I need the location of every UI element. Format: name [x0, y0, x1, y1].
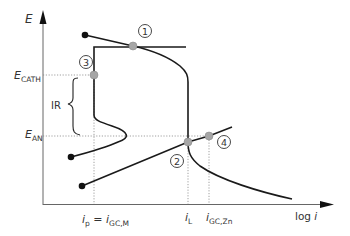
e-cath-label: ECATH	[14, 69, 41, 84]
svg-text:4: 4	[221, 137, 227, 148]
point-3	[90, 71, 98, 79]
axes	[40, 10, 335, 208]
guide-lines	[43, 75, 209, 204]
e-an-label: EAN	[25, 128, 43, 143]
igczn-label: iGC,Zn	[206, 211, 233, 226]
curve-end-dot	[79, 183, 86, 190]
ip-label: ip = iGC,M	[82, 213, 129, 228]
curve-end-dot	[68, 154, 75, 161]
svg-text:3: 3	[83, 57, 89, 68]
svg-text:1: 1	[142, 26, 148, 37]
axis-labels: E log i ECATH EAN IR ip = iGC,M iL iGC,Z…	[14, 12, 317, 228]
point-4	[205, 132, 213, 140]
curves	[71, 35, 292, 199]
curve-end-dot	[82, 32, 89, 39]
y-axis-label: E	[25, 12, 33, 26]
x-axis-label: log i	[295, 210, 317, 222]
ir-label: IR	[51, 100, 61, 111]
il-label: iL	[185, 211, 193, 226]
marker-3: 3	[80, 56, 93, 69]
anodic-line-top	[85, 35, 292, 199]
point-2	[184, 138, 192, 146]
y-axis-arrow-icon	[40, 10, 47, 24]
marker-labels: 1 3 2 4	[80, 25, 231, 168]
marker-2: 2	[171, 155, 184, 168]
marker-1: 1	[139, 25, 152, 38]
svg-text:2: 2	[174, 156, 180, 167]
polarization-diagram: 1 3 2 4 E log i ECATH EAN IR ip = iGC,M …	[0, 0, 350, 236]
x-axis-arrow-icon	[320, 201, 334, 208]
ir-brace	[68, 78, 80, 135]
intersection-points	[90, 42, 213, 146]
marker-4: 4	[218, 136, 231, 149]
point-1	[129, 42, 137, 50]
